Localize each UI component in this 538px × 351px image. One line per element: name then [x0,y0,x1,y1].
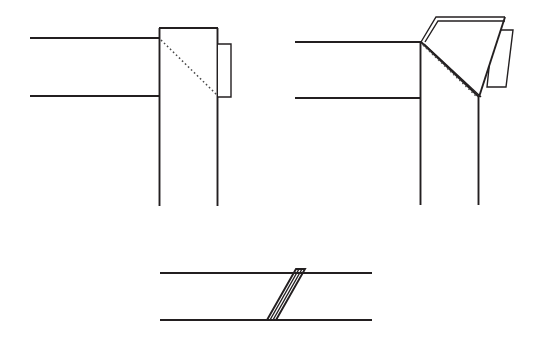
technical-drawing-canvas [0,0,538,351]
section-flap-face [267,269,305,320]
diagram-root [0,0,538,351]
section-flap-rule-2 [273,269,302,320]
figure-folded [295,17,513,205]
panel-face [159,28,218,206]
figure-unfolded [30,28,231,206]
tab-face [218,44,231,97]
figure-section [160,269,372,320]
section-flap-rule-1 [270,269,299,320]
